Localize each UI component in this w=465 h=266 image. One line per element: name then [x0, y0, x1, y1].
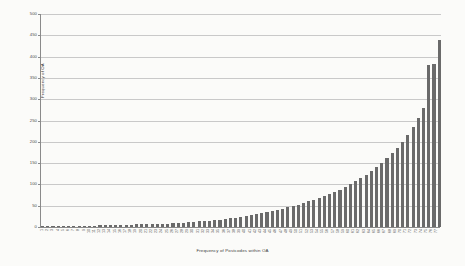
y-axis-tick-label: 450 [30, 33, 37, 37]
bar [83, 226, 86, 227]
bar [51, 226, 54, 227]
bar [130, 225, 133, 227]
x-axis-tick-label: 19 [133, 229, 138, 245]
bar [370, 171, 373, 227]
bar [109, 225, 112, 227]
bar [250, 215, 253, 227]
bar [406, 135, 409, 227]
bar [427, 65, 430, 227]
bar [145, 224, 148, 227]
bar [140, 224, 143, 227]
bar [338, 190, 341, 227]
x-axis-tick-label: 9 [82, 229, 87, 245]
x-axis-tick-label: 56 [325, 229, 330, 245]
bar [422, 108, 425, 227]
x-axis-tick-label: 67 [382, 229, 387, 245]
bar [78, 226, 81, 227]
bar [349, 184, 352, 227]
plot-area [40, 14, 440, 228]
bar [359, 178, 362, 227]
y-axis-tick-label: 500 [30, 12, 37, 16]
bar [412, 127, 415, 227]
bar [182, 223, 185, 227]
x-axis-tick-label: 62 [356, 229, 361, 245]
x-axis-tick-label: 51 [299, 229, 304, 245]
y-axis-tick-label: 150 [30, 161, 37, 165]
y-axis-tick-label: 250 [30, 119, 37, 123]
bar [344, 187, 347, 227]
y-axis-tick-label: 100 [30, 182, 37, 186]
bar [93, 226, 96, 227]
bar [218, 220, 221, 227]
bar [354, 181, 357, 227]
bar [281, 209, 284, 227]
bar [67, 226, 70, 227]
bar [156, 224, 159, 227]
x-axis-tick-label: 4 [56, 229, 61, 245]
bar [292, 206, 295, 227]
bar [375, 167, 378, 227]
bar [286, 207, 289, 227]
x-axis-tick-label: 41 [248, 229, 253, 245]
bar [312, 200, 315, 227]
bar [114, 225, 117, 227]
y-axis-tick-label: 200 [30, 140, 37, 144]
bar [151, 224, 154, 227]
bar [328, 194, 331, 227]
bar [239, 217, 242, 227]
bar [417, 118, 420, 227]
bar [255, 214, 258, 227]
x-axis-tick-label: 57 [331, 229, 336, 245]
bar [135, 224, 138, 227]
bar [203, 221, 206, 227]
x-axis-tick-label: 52 [305, 229, 310, 245]
bar [234, 218, 237, 227]
bar [46, 226, 49, 227]
x-axis-tick-label: 25 [165, 229, 170, 245]
x-axis-tick-label: 24 [159, 229, 164, 245]
bar [198, 221, 201, 227]
bar [297, 205, 300, 227]
bar [208, 221, 211, 227]
bar [192, 222, 195, 227]
bar [104, 225, 107, 227]
bar [166, 224, 169, 227]
x-axis-tick-label: 3 [50, 229, 55, 245]
bar [333, 192, 336, 227]
x-axis-tick-label: 30 [190, 229, 195, 245]
bar [396, 148, 399, 227]
x-axis-tick-label: 68 [388, 229, 393, 245]
x-axis-tick-label: 35 [216, 229, 221, 245]
x-axis-tick-label: 14 [107, 229, 112, 245]
x-axis-tick-label: 20 [139, 229, 144, 245]
bar [438, 40, 441, 227]
x-axis-tick-label: 73 [414, 229, 419, 245]
y-axis-tick-label: 350 [30, 76, 37, 80]
bar [187, 222, 190, 227]
y-axis: 050100150200250300350400450500 [0, 0, 40, 266]
x-axis-tick-label: 77 [434, 229, 439, 245]
bar [265, 212, 268, 227]
x-axis-title: Frequency of Postcodes within OA [0, 248, 465, 253]
bar [171, 223, 174, 227]
bar [276, 210, 279, 227]
bar [391, 153, 394, 227]
bar [98, 225, 101, 227]
bar [323, 196, 326, 227]
bar [88, 226, 91, 227]
bar [385, 158, 388, 227]
bar [260, 213, 263, 227]
bar [57, 226, 60, 227]
bar [229, 218, 232, 227]
bar [432, 64, 435, 227]
y-axis-tick-label: 400 [30, 55, 37, 59]
bar [271, 211, 274, 227]
x-axis-tick-label: 8 [76, 229, 81, 245]
bar [245, 216, 248, 227]
bar [72, 226, 75, 227]
bar [307, 201, 310, 227]
x-axis-tick-labels: 1234567891011121314151617181920212223242… [40, 229, 440, 245]
bar [224, 219, 227, 227]
bar [213, 220, 216, 227]
x-axis-tick-label: 40 [242, 229, 247, 245]
